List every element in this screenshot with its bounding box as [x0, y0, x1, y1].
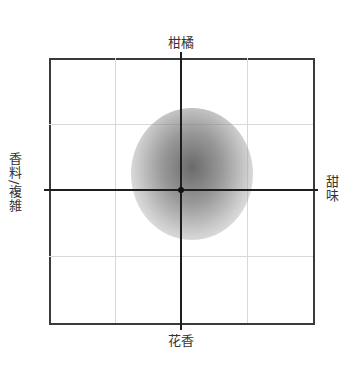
- flavor-profile-blob: [131, 108, 253, 240]
- origin-dot: [178, 187, 184, 193]
- axis-label-bottom: 花香: [166, 333, 196, 348]
- axis-label-right: 甜味: [323, 175, 339, 203]
- axis-label-top: 柑橘: [166, 35, 196, 50]
- axis-label-left: 香料/複雑: [6, 152, 22, 213]
